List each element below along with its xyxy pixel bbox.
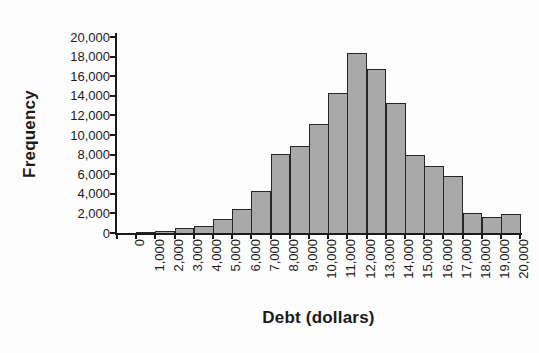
bar — [482, 217, 502, 234]
x-tick-label-text: 20,000 — [517, 239, 530, 279]
y-tick-label: 18,000 — [40, 49, 110, 64]
bar — [443, 176, 463, 234]
bar — [347, 53, 367, 234]
x-tick-label: 20,000 — [501, 237, 520, 299]
x-tick-label: 3,000 — [175, 237, 194, 299]
bar — [290, 146, 310, 234]
bar — [405, 155, 425, 234]
bar — [251, 191, 271, 234]
bar — [232, 209, 252, 234]
y-tick-label: 2,000 — [40, 206, 110, 221]
y-tick-label: 0 — [40, 226, 110, 241]
x-tick-label: 10,000 — [309, 237, 328, 299]
x-tick-label: 2,000 — [155, 237, 174, 299]
x-tick-label: 18,000 — [463, 237, 482, 299]
y-tick-label: 8,000 — [40, 147, 110, 162]
x-tick-label: 17,000 — [443, 237, 462, 299]
x-tick-label: 0 — [117, 237, 136, 299]
bar — [424, 166, 444, 234]
x-tick-label: 11,000 — [328, 237, 347, 299]
y-tick-label: 6,000 — [40, 167, 110, 182]
x-tick-label: 12,000 — [347, 237, 366, 299]
y-tick-label: 4,000 — [40, 186, 110, 201]
x-tick-label: 4,000 — [194, 237, 213, 299]
bar — [271, 154, 291, 234]
x-axis-title: Debt (dollars) — [117, 308, 520, 328]
x-tick-label: 13,000 — [367, 237, 386, 299]
bar — [463, 213, 483, 234]
bar — [386, 103, 406, 234]
x-tick-label: 19,000 — [482, 237, 501, 299]
x-tick-label: 14,000 — [386, 237, 405, 299]
y-tick-label: 16,000 — [40, 69, 110, 84]
histogram-figure: Frequency 02,0004,0006,0008,00010,00012,… — [0, 0, 539, 353]
bar — [328, 93, 348, 234]
y-axis-line — [115, 33, 117, 235]
x-tick-label: 16,000 — [424, 237, 443, 299]
bar — [501, 214, 521, 234]
x-tick-label: 15,000 — [405, 237, 424, 299]
x-tick-label: 1,000 — [136, 237, 155, 299]
y-tick-label: 20,000 — [40, 30, 110, 45]
y-tick-label: 12,000 — [40, 108, 110, 123]
x-tick-label: 5,000 — [213, 237, 232, 299]
y-tick-label: 10,000 — [40, 128, 110, 143]
x-axis-line — [115, 233, 522, 235]
bar — [367, 69, 387, 234]
bar — [309, 124, 329, 234]
plot-area: 02,0004,0006,0008,00010,00012,00014,0001… — [0, 0, 539, 353]
x-tick-label: 7,000 — [251, 237, 270, 299]
bar — [213, 219, 233, 234]
x-tick-label: 8,000 — [271, 237, 290, 299]
x-tick-label: 9,000 — [290, 237, 309, 299]
x-tick-label: 6,000 — [232, 237, 251, 299]
y-tick-label: 14,000 — [40, 88, 110, 103]
